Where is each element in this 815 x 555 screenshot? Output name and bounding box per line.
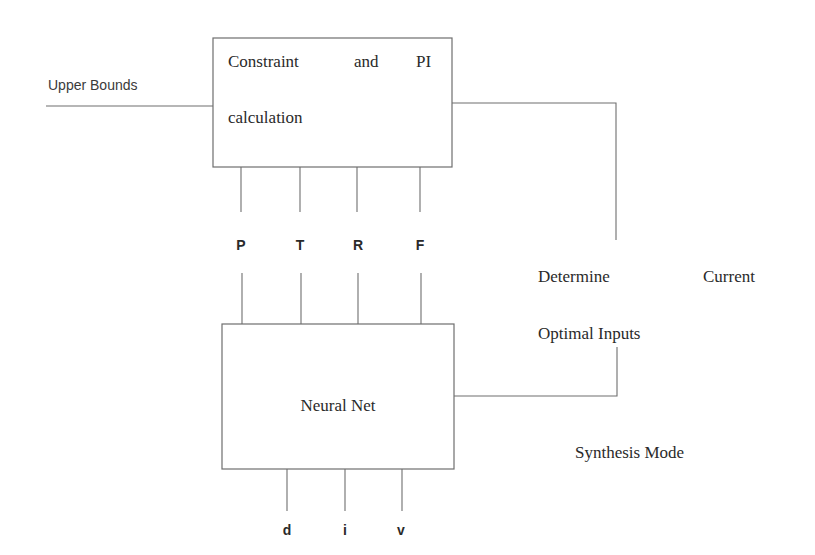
neural-net-label: Neural Net	[300, 396, 375, 415]
output-label-v: v	[397, 522, 405, 538]
signal-label-r: R	[353, 237, 363, 253]
output-label-i: i	[343, 522, 347, 538]
signal-label-t: T	[296, 237, 305, 253]
constraint-word: Constraint	[228, 52, 299, 71]
neural-net-output-connector	[454, 347, 617, 396]
signal-label-p: P	[236, 237, 245, 253]
output-label-d: d	[283, 522, 292, 538]
synthesis-mode-label: Synthesis Mode	[575, 443, 684, 462]
pi-word: PI	[416, 52, 431, 71]
top-feedback-connector	[452, 103, 616, 240]
calculation-word: calculation	[228, 108, 303, 127]
upper-bounds-label: Upper Bounds	[48, 77, 138, 93]
determine-word: Determine	[538, 267, 610, 286]
signal-label-f: F	[416, 237, 425, 253]
current-word: Current	[703, 267, 755, 286]
and-word: and	[354, 52, 379, 71]
optimal-inputs-text: Optimal Inputs	[538, 324, 640, 343]
control-diagram: Upper Bounds Constraint and PI calculati…	[0, 0, 815, 555]
